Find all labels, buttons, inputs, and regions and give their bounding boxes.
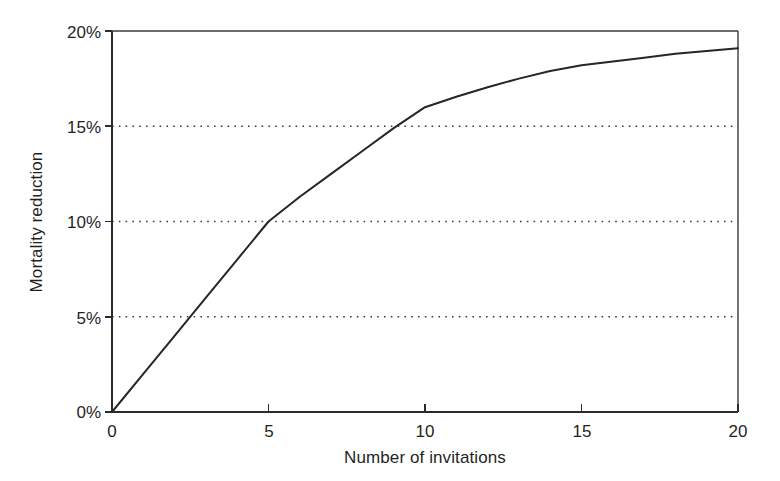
y-tick-label-3: 15% bbox=[67, 118, 101, 137]
x-tick-label-0: 0 bbox=[107, 422, 116, 441]
chart-figure: 0% 5% 10% 15% 20% 0 5 10 15 20 Number of… bbox=[0, 0, 780, 481]
chart-background bbox=[0, 0, 780, 481]
x-tick-label-1: 5 bbox=[264, 422, 273, 441]
line-chart: 0% 5% 10% 15% 20% 0 5 10 15 20 Number of… bbox=[0, 0, 780, 481]
y-tick-label-1: 5% bbox=[76, 309, 101, 328]
y-axis-title: Mortality reduction bbox=[27, 152, 46, 293]
x-tick-label-4: 20 bbox=[729, 422, 748, 441]
x-tick-label-3: 15 bbox=[573, 422, 592, 441]
y-tick-label-4: 20% bbox=[67, 23, 101, 42]
x-axis-title: Number of invitations bbox=[344, 448, 506, 467]
x-tick-label-2: 10 bbox=[416, 422, 435, 441]
y-tick-label-0: 0% bbox=[76, 403, 101, 422]
y-tick-label-2: 10% bbox=[67, 213, 101, 232]
